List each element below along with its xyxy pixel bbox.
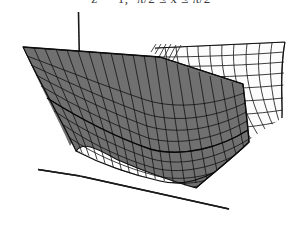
y-axis-foreground [38,170,80,177]
x-axis-foreground [82,177,229,210]
surface-plot-figure: z = -1, -π/2 ≤ x ≤ π/2 [0,0,302,228]
surface-plot-canvas [0,0,302,228]
